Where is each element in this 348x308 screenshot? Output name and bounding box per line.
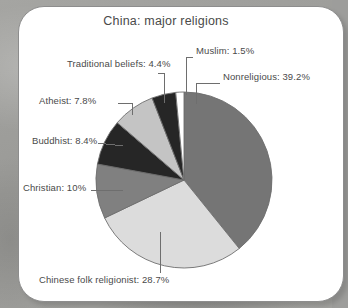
slice-label-christian: Christian: 10% (23, 182, 86, 193)
slice-label-chinese-folk-religionist: Chinese folk religionist: 28.7% (39, 274, 169, 285)
slice-label-buddhist: Buddhist: 8.4% (32, 135, 97, 146)
slice-label-atheist: Atheist: 7.8% (39, 95, 96, 106)
slice-label-muslim: Muslim: 1.5% (196, 45, 254, 56)
slice-label-nonreligious: Nonreligious: 39.2% (223, 71, 310, 82)
leader-line-muslim (186, 57, 193, 95)
slice-label-traditional-beliefs: Traditional beliefs: 4.4% (67, 58, 171, 69)
pie-slices-group: Nonreligious: 39.2%Chinese folk religion… (96, 92, 272, 268)
